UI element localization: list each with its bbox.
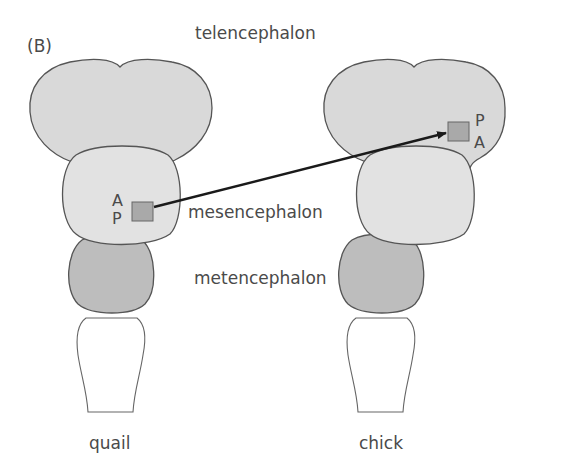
brain-graft-diagram: (B) A P P A telencephalon mesencephalon … — [0, 0, 568, 475]
mesencephalon-label: mesencephalon — [188, 202, 323, 222]
chick-metencephalon — [339, 234, 424, 313]
quail-metencephalon — [69, 234, 154, 313]
quail-posterior-label: P — [112, 209, 122, 228]
quail-brain: A P — [30, 59, 212, 412]
chick-anterior-label: A — [474, 133, 485, 152]
chick-mesencephalon — [357, 146, 475, 245]
quail-spinal-cord — [77, 318, 145, 412]
telencephalon-label: telencephalon — [195, 23, 316, 43]
chick-label: chick — [359, 433, 403, 453]
metencephalon-label: metencephalon — [194, 268, 327, 288]
chick-graft-square — [448, 122, 469, 141]
quail-anterior-label: A — [112, 191, 123, 210]
chick-posterior-label: P — [475, 111, 485, 130]
chick-brain: P A — [324, 59, 505, 412]
quail-graft-square — [132, 202, 153, 221]
panel-label: (B) — [27, 36, 52, 56]
chick-spinal-cord — [347, 318, 415, 412]
quail-label: quail — [89, 433, 130, 453]
